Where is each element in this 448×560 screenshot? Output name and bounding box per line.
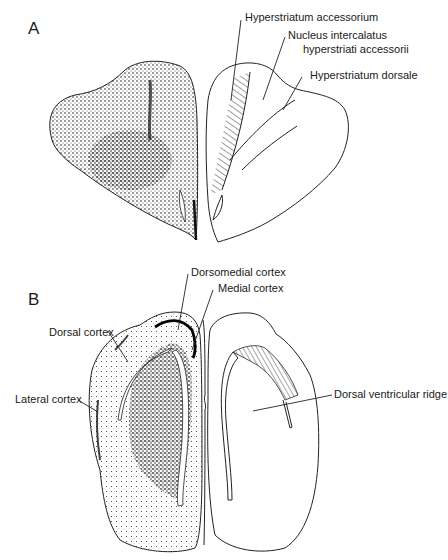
panel-a-label: A bbox=[28, 19, 40, 38]
panel-b-label: B bbox=[28, 290, 39, 309]
label-lateral-cortex: Lateral cortex bbox=[15, 393, 82, 405]
diagram-canvas: A Hyperstriatum accessorium Nucleus inte… bbox=[0, 0, 448, 560]
label-nucleus-intercalatus: Nucleus intercalatus bbox=[288, 29, 388, 41]
label-medial-cortex: Medial cortex bbox=[218, 282, 284, 294]
label-dorsal-ventricular-ridge: Dorsal ventricular ridge bbox=[334, 388, 447, 400]
panel-a-stained-section bbox=[50, 61, 198, 240]
label-hyperstriati-accessorii: hyperstriati accessorii bbox=[303, 43, 409, 55]
panel-a: A Hyperstriatum accessorium Nucleus inte… bbox=[28, 11, 418, 242]
label-hyperstriatum-accessorium: Hyperstriatum accessorium bbox=[245, 11, 378, 23]
panel-b-outline-section bbox=[208, 313, 319, 551]
panel-a-outline-section bbox=[206, 63, 348, 242]
label-dorsal-cortex: Dorsal cortex bbox=[49, 326, 114, 338]
panel-b-stained-section bbox=[89, 312, 202, 552]
label-dorsomedial-cortex: Dorsomedial cortex bbox=[191, 266, 286, 278]
panel-b: B Dorsomedial cortex Medial cortex D bbox=[15, 266, 447, 552]
label-hyperstriatum-dorsale: Hyperstriatum dorsale bbox=[310, 69, 418, 81]
